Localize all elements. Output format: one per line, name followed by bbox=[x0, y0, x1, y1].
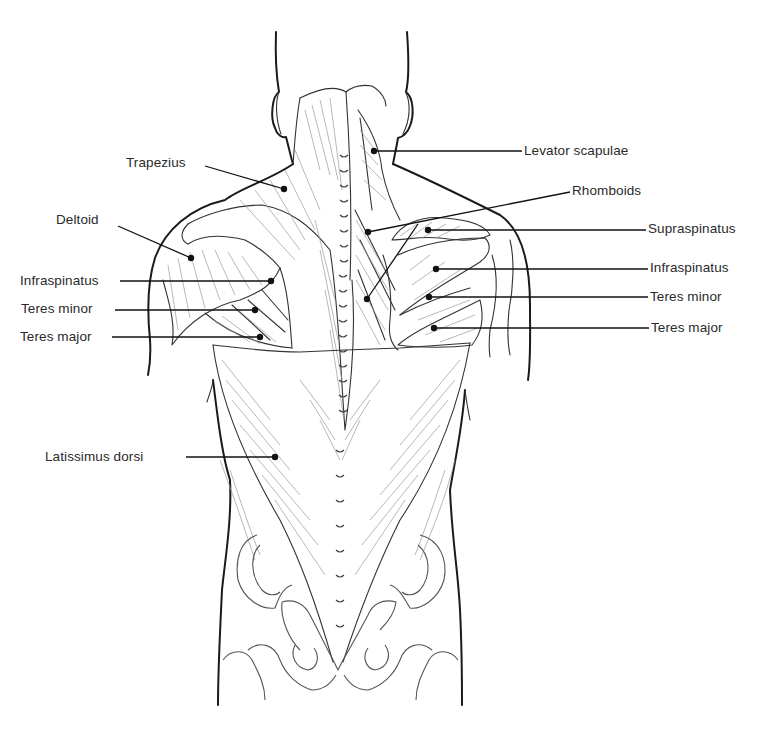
label-infraspinatus-left: Infraspinatus bbox=[20, 273, 99, 289]
label-rhomboids: Rhomboids bbox=[572, 183, 641, 199]
label-teres-major-left: Teres major bbox=[20, 329, 92, 345]
label-teres-minor-left: Teres minor bbox=[21, 301, 93, 317]
pelvis-bones bbox=[223, 535, 458, 700]
left-scapular-muscles bbox=[205, 268, 292, 348]
head-neck-outline bbox=[272, 32, 412, 164]
label-teres-minor-right: Teres minor bbox=[650, 289, 722, 305]
latissimus-dorsi-shape bbox=[213, 343, 470, 662]
body-illustration bbox=[0, 0, 764, 730]
label-infraspinatus-right: Infraspinatus bbox=[650, 260, 729, 276]
label-supraspinatus: Supraspinatus bbox=[648, 221, 736, 237]
left-deltoid-shape bbox=[163, 224, 280, 345]
torso-outline bbox=[148, 164, 530, 705]
leader-lines bbox=[112, 151, 649, 457]
label-deltoid: Deltoid bbox=[56, 212, 99, 228]
label-teres-major-right: Teres major bbox=[651, 320, 723, 336]
label-trapezius: Trapezius bbox=[126, 155, 186, 171]
anatomy-diagram: Trapezius Deltoid Infraspinatus Teres mi… bbox=[0, 0, 764, 730]
label-latissimus-dorsi: Latissimus dorsi bbox=[45, 449, 143, 465]
label-levator-scapulae: Levator scapulae bbox=[524, 143, 628, 159]
